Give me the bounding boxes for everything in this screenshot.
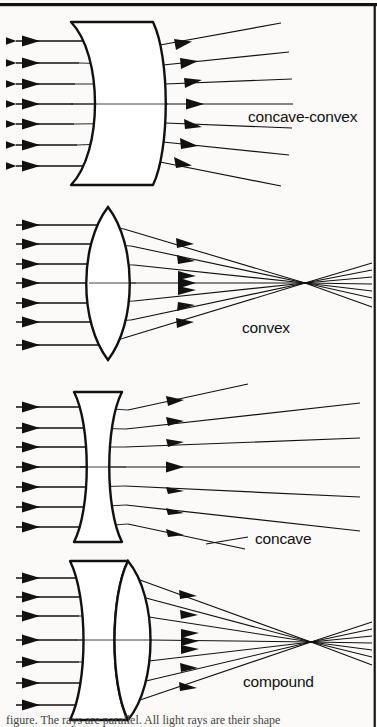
label-concave-convex: concave-convex (248, 108, 358, 125)
lens-types-figure: concave-convex (0, 0, 377, 727)
label-compound: compound (243, 673, 314, 690)
lens-diagram-canvas: concave-convex (0, 0, 377, 727)
border-top (0, 3, 377, 6)
label-concave: concave (255, 530, 311, 547)
figure-caption-fragment: figure. The rays are parallel. All light… (6, 713, 280, 727)
border-right (374, 3, 376, 727)
label-convex: convex (242, 319, 290, 336)
